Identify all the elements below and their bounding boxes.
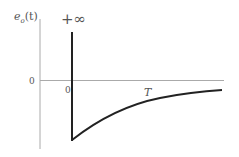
time-constant-label: T: [144, 86, 153, 99]
y-axis-label: eo(t): [14, 10, 38, 25]
response-plot: eo(t) +∞ 0 0 T: [0, 0, 239, 157]
spike-label: +∞: [61, 10, 86, 28]
y-zero-label: 0: [29, 76, 35, 86]
x-zero-label: 0: [65, 85, 71, 95]
